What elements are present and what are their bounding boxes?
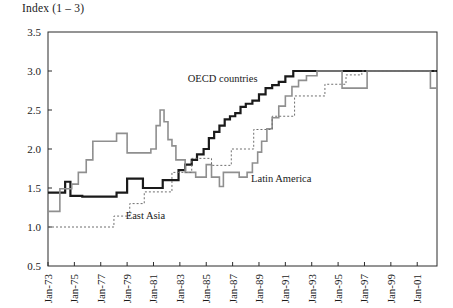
x-tick-label: Jan-81: [147, 274, 159, 303]
chart-figure: Index (1 – 3) 3.53.02.52.01.51.00.5 Jan-…: [0, 0, 453, 308]
series-annotations: OECD countriesLatin AmericaEast Asia: [126, 73, 312, 221]
series-line: [48, 71, 437, 227]
x-tick-label: Jan-77: [95, 274, 107, 304]
y-tick-label: 1.0: [27, 221, 41, 233]
series-label: OECD countries: [188, 73, 258, 84]
series-label: Latin America: [251, 173, 312, 184]
line-chart-svg: 3.53.02.52.01.51.00.5 Jan-73Jan-75Jan-77…: [0, 0, 453, 308]
series-label: East Asia: [126, 210, 166, 221]
x-axis-ticks: Jan-73Jan-75Jan-77Jan-79Jan-81Jan-83Jan-…: [42, 262, 423, 303]
x-tick-label: Jan-97: [358, 274, 370, 304]
y-tick-label: 2.5: [27, 104, 41, 116]
x-tick-label: Jan-99: [385, 274, 397, 304]
series-line: [48, 71, 437, 211]
x-tick-label: Jan-87: [227, 274, 239, 304]
x-tick-label: Jan-75: [68, 274, 80, 304]
y-tick-label: 3.0: [27, 65, 41, 77]
x-tick-label: Jan-85: [200, 274, 212, 304]
x-tick-label: Jan-83: [174, 274, 186, 304]
y-tick-label: 1.5: [27, 182, 41, 194]
data-series-group: [48, 71, 437, 227]
y-tick-label: 2.0: [27, 143, 41, 155]
y-tick-label: 0.5: [27, 260, 41, 272]
x-tick-label: Jan-89: [253, 274, 265, 304]
x-tick-label: Jan-73: [42, 274, 54, 304]
y-tick-label: 3.5: [27, 26, 41, 38]
x-tick-label: Jan-95: [332, 274, 344, 304]
x-tick-label: Jan-01: [411, 274, 423, 303]
plot-area: 3.53.02.52.01.51.00.5 Jan-73Jan-75Jan-77…: [0, 0, 453, 308]
x-tick-label: Jan-79: [121, 274, 133, 304]
plot-frame: [48, 32, 437, 266]
x-tick-label: Jan-91: [279, 274, 291, 303]
x-tick-label: Jan-93: [306, 274, 318, 304]
